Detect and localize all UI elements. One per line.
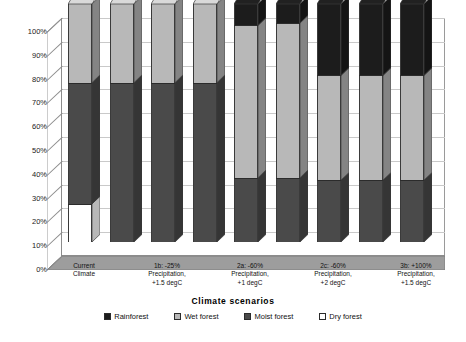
bar-column[interactable]	[151, 4, 175, 242]
y-axis-tick-label: 90%	[13, 52, 47, 60]
plot-area	[47, 18, 445, 270]
bar-segment-rainforest[interactable]	[234, 4, 258, 25]
bar-side-face	[92, 0, 100, 242]
legend-swatch-dryforest-icon	[319, 313, 326, 320]
bar-segment-moist-forest[interactable]	[110, 83, 134, 242]
legend-swatch-rainforest-icon	[104, 313, 111, 320]
y-axis-tick-label: 30%	[13, 195, 47, 203]
x-axis-category-label: 1b: -25%Precipitation,+1.5 degC	[133, 262, 201, 287]
bar-stack	[68, 4, 92, 242]
bar-side-face	[217, 0, 225, 242]
bar-segment-moist-forest[interactable]	[317, 180, 341, 242]
segment-divider	[193, 83, 217, 84]
segment-divider	[276, 178, 300, 179]
bar-stack	[317, 4, 341, 242]
legend-item[interactable]: Dry forest	[319, 312, 362, 321]
bar-segment-wet-forest[interactable]	[400, 75, 424, 180]
bar-segment-rainforest[interactable]	[359, 4, 383, 75]
legend-swatch-wetforest-icon	[174, 313, 181, 320]
y-axis-tick-label: 20%	[13, 218, 47, 226]
bar-segment-wet-forest[interactable]	[276, 23, 300, 178]
bar-side-face	[300, 0, 308, 242]
bar-side-face	[424, 0, 432, 242]
x-axis-label-line: Precipitation,	[133, 270, 201, 278]
segment-divider	[234, 178, 258, 179]
bar-column[interactable]	[276, 4, 300, 242]
legend-label: Rainforest	[114, 312, 148, 321]
bar-column[interactable]	[317, 4, 341, 242]
bar-segment-rainforest[interactable]	[317, 4, 341, 75]
bar-column[interactable]	[193, 4, 217, 242]
y-axis-tick-label: 0%	[13, 266, 47, 274]
y-axis-tick-label: 10%	[13, 242, 47, 250]
bar-segment-moist-forest[interactable]	[151, 83, 175, 242]
x-axis-label-line: 2a: -60%	[216, 262, 284, 270]
x-axis-label-line: +1 degC	[216, 279, 284, 287]
bar-segment-wet-forest[interactable]	[151, 4, 175, 83]
bar-stack	[151, 4, 175, 242]
bar-segment-wet-forest[interactable]	[359, 75, 383, 180]
bar-stack	[110, 4, 134, 242]
x-axis-label-line: 1b: -25%	[133, 262, 201, 270]
x-axis-label-line: Precipitation,	[299, 270, 367, 278]
bar-segment-moist-forest[interactable]	[359, 180, 383, 242]
x-axis-label-line: Precipitation,	[382, 270, 450, 278]
x-axis-label-line: +1.5 degC	[382, 279, 450, 287]
legend-label: Wet forest	[184, 312, 218, 321]
legend-swatch-moistforest-icon	[244, 313, 251, 320]
bar-segment-wet-forest[interactable]	[317, 75, 341, 180]
segment-divider	[400, 75, 424, 76]
legend-item[interactable]: Rainforest	[104, 312, 148, 321]
segment-divider	[234, 25, 258, 26]
x-axis-label-line: 2c: -60%	[299, 262, 367, 270]
x-axis-label-line: Current	[50, 262, 118, 270]
legend-item[interactable]: Moist forest	[244, 312, 293, 321]
y-axis-tick-label: 80%	[13, 76, 47, 84]
legend-item[interactable]: Wet forest	[174, 312, 218, 321]
segment-divider	[68, 204, 92, 205]
segment-divider	[317, 75, 341, 76]
segment-divider	[68, 83, 92, 84]
segment-divider	[359, 180, 383, 181]
chart-root: 0%10%20%30%40%50%60%70%80%90%100% Curren…	[0, 0, 466, 342]
y-axis-tick-label: 100%	[13, 28, 47, 36]
bar-segment-wet-forest[interactable]	[234, 25, 258, 177]
x-axis-label-line: +2 degC	[299, 279, 367, 287]
bar-segment-moist-forest[interactable]	[193, 83, 217, 242]
bar-column[interactable]	[359, 4, 383, 242]
bar-column[interactable]	[234, 4, 258, 242]
x-axis-category-label: CurrentClimate	[50, 262, 118, 279]
bar-segment-wet-forest[interactable]	[193, 4, 217, 83]
bar-segment-wet-forest[interactable]	[110, 4, 134, 83]
x-axis-label-line: Climate	[50, 270, 118, 278]
bar-segment-moist-forest[interactable]	[234, 178, 258, 242]
bar-stack	[234, 4, 258, 242]
y-axis-tick-label: 70%	[13, 99, 47, 107]
bar-side-face	[258, 0, 266, 242]
bar-column[interactable]	[400, 4, 424, 242]
bar-segment-wet-forest[interactable]	[68, 4, 92, 83]
segment-divider	[110, 83, 134, 84]
bar-segment-moist-forest[interactable]	[276, 178, 300, 242]
x-axis-label-line: Precipitation,	[216, 270, 284, 278]
bar-column[interactable]	[110, 4, 134, 242]
bar-segment-rainforest[interactable]	[400, 4, 424, 75]
bar-segment-dry-forest[interactable]	[68, 204, 92, 242]
legend-label: Moist forest	[254, 312, 293, 321]
bar-stack	[276, 4, 300, 242]
bar-segment-moist-forest[interactable]	[400, 180, 424, 242]
legend-label: Dry forest	[329, 312, 362, 321]
bar-segment-moist-forest[interactable]	[68, 83, 92, 204]
segment-divider	[151, 83, 175, 84]
bar-side-face	[175, 0, 183, 242]
bar-side-face	[383, 0, 391, 242]
chart-legend: RainforestWet forestMoist forestDry fore…	[0, 312, 466, 321]
segment-divider	[400, 180, 424, 181]
bar-segment-rainforest[interactable]	[276, 4, 300, 23]
x-axis-title: Climate scenarios	[0, 296, 466, 306]
y-axis-tick-label: 50%	[13, 147, 47, 155]
bar-column[interactable]	[68, 4, 92, 242]
y-axis-tick-label: 40%	[13, 171, 47, 179]
x-axis-label-line: +1.5 degC	[133, 279, 201, 287]
bar-stack	[359, 4, 383, 242]
